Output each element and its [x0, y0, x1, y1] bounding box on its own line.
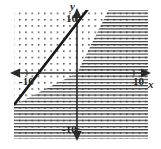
graph-figure: y x 10 10 -10 -10 — [0, 0, 161, 149]
x-tick-label-neg10: -10 — [19, 76, 34, 87]
x-tick-label-10: 10 — [133, 76, 144, 87]
x-axis-label: x — [148, 79, 154, 90]
y-tick-label-neg10: -10 — [62, 124, 77, 135]
y-axis-label: y — [70, 1, 75, 12]
y-tick-label-10: 10 — [66, 13, 77, 24]
